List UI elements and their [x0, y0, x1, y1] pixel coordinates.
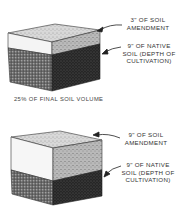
label-line: 9" OF SOIL: [116, 131, 176, 139]
label-line: 3" OF SOIL: [118, 16, 178, 24]
block-top: [8, 24, 122, 91]
block-bottom: [11, 131, 121, 205]
native-label-top: 9" OF NATIVE SOIL (DEPTH OF CULTIVATION): [118, 42, 180, 65]
volume-caption: 25% OF FINAL SOIL VOLUME: [14, 96, 103, 102]
label-line: 9" OF NATIVE: [118, 42, 180, 50]
label-line: SOIL (DEPTH OF: [117, 169, 179, 177]
label-line: AMENDMENT: [116, 139, 176, 147]
block-top-native-front: [8, 48, 52, 91]
amendment-label-bottom: 9" OF SOIL AMENDMENT: [116, 131, 176, 146]
label-line: SOIL (DEPTH OF: [118, 50, 180, 58]
native-label-bottom: 9" OF NATIVE SOIL (DEPTH OF CULTIVATION): [117, 161, 179, 184]
label-line: CULTIVATION): [118, 57, 180, 65]
label-line: 9" OF NATIVE: [117, 161, 179, 169]
label-line: CULTIVATION): [117, 176, 179, 184]
amendment-label-top: 3" OF SOIL AMENDMENT: [118, 16, 178, 31]
soil-blocks-illustration: [0, 0, 182, 217]
label-line: AMENDMENT: [118, 24, 178, 32]
